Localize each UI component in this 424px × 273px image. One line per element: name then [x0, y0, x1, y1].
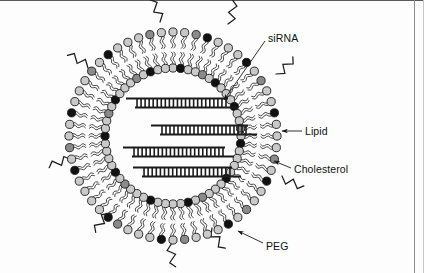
lipid-head-outer [214, 226, 222, 234]
lipid-head-outer [66, 120, 74, 128]
lipid-tail-outer [219, 211, 226, 223]
lipid-tail-inner [190, 54, 194, 67]
lipid-bilayer-layer [65, 28, 281, 244]
lipid-head-outer [95, 58, 103, 66]
lipid-head-outer [135, 34, 143, 42]
label-sirna-text: siRNA [268, 32, 298, 44]
lipid-head-outer [192, 31, 200, 39]
lipid-head-inner [169, 64, 177, 72]
peg-upper-left [67, 50, 91, 70]
label-peg-text: PEG [266, 240, 288, 252]
lipid-head-outer [250, 67, 258, 75]
lipid-head-outer [124, 226, 132, 234]
peg-top-right [226, 0, 240, 25]
lipid-head-outer [181, 235, 189, 243]
lipid-tail-inner [241, 153, 254, 157]
lipid-head-inner [101, 124, 109, 132]
lipid-tail-outer [193, 37, 197, 50]
lipid-head-outer [250, 197, 258, 205]
cholesterol-head-outer [270, 109, 278, 117]
peg-top-left [149, 0, 165, 23]
lipid-head-outer [257, 187, 265, 195]
label-lipid-text: Lipid [305, 125, 328, 137]
lipid-tail-inner [127, 195, 134, 207]
lipid-tail-outer [259, 115, 272, 119]
lipid-head-outer [124, 38, 132, 46]
lipid-tail-outer [191, 222, 195, 235]
label-cholesterol-text: Cholesterol [294, 163, 348, 175]
lipid-tail-outer [86, 182, 98, 189]
cholesterol-head-outer [68, 109, 76, 117]
lipid-head-outer [114, 220, 122, 228]
label-peg-leader [238, 231, 263, 243]
lipid-head-outer [169, 236, 177, 244]
cholesterol-head-outer [263, 177, 271, 185]
lipid-nanoparticle-diagram [0, 0, 424, 273]
lipid-head-inner [235, 117, 243, 125]
cholesterol-head-outer [157, 235, 165, 243]
lipid-head-outer [203, 230, 211, 238]
lipid-tail-outer [259, 156, 272, 160]
label-leader-layer [224, 41, 302, 243]
lipid-head-outer [157, 29, 165, 37]
lipid-head-outer [242, 205, 250, 213]
cholesterol-head-outer [203, 34, 211, 42]
lipid-tail-outer [248, 83, 260, 90]
cholesterol-head-inner [184, 198, 192, 206]
lipid-head-outer [267, 166, 275, 174]
lipid-head-inner [101, 140, 109, 148]
sirna-strand-3 [123, 148, 234, 157]
lipid-head-outer [75, 177, 83, 185]
lipid-head-inner [154, 66, 162, 74]
lipid-head-outer [257, 77, 265, 85]
lipid-head-inner [177, 199, 185, 207]
peg-lower-right [279, 174, 304, 192]
lipid-tail-inner [91, 150, 104, 154]
lipid-tail-outer [74, 154, 87, 158]
lipid-tail-outer [120, 49, 127, 61]
lipid-head-outer [272, 120, 280, 128]
lipid-head-outer [273, 132, 281, 140]
lipid-head-inner [161, 199, 169, 207]
cholesterol-head-inner [236, 140, 244, 148]
lipid-head-outer [267, 98, 275, 106]
lipid-head-outer [214, 38, 222, 46]
lipid-tail-inner [152, 204, 156, 217]
lipid-tail-inner [155, 54, 159, 67]
lipid-tail-inner [242, 118, 255, 122]
cholesterol-head-inner [177, 64, 185, 72]
lipid-head-outer [88, 67, 96, 75]
peg-bottom [167, 243, 177, 268]
lipid-tail-inner [212, 65, 219, 77]
lipid-head-outer [135, 230, 143, 238]
lipid-tail-inner [187, 205, 191, 218]
lipid-head-outer [263, 87, 271, 95]
lipid-head-outer [169, 28, 177, 36]
lipid-head-outer [71, 98, 79, 106]
lipid-head-outer [95, 205, 103, 213]
lipid-head-outer [65, 132, 73, 140]
lipid-head-outer [66, 144, 74, 152]
sirna-strand-1 [126, 99, 237, 108]
lipid-head-outer [81, 77, 89, 85]
label-cholesterol-leader [274, 161, 291, 168]
lipid-head-outer [68, 155, 76, 163]
cholesterol-head-outer [242, 58, 250, 66]
lipid-head-inner [161, 64, 169, 72]
lipid-tail-outer [74, 111, 87, 115]
cholesterol-head-inner [101, 132, 109, 140]
lipid-head-inner [103, 147, 111, 155]
lipid-head-outer [181, 29, 189, 37]
cholesterol-head-outer [71, 166, 79, 174]
lipid-head-outer [146, 31, 154, 39]
lipid-head-outer [234, 51, 242, 59]
lipid-head-outer [224, 44, 232, 52]
lipid-head-outer [272, 144, 280, 152]
figure-frame: siRNA Lipid Cholesterol PEG [0, 0, 424, 273]
lipid-head-inner [169, 200, 177, 208]
lipid-head-outer [234, 213, 242, 221]
cholesterol-head-outer [104, 51, 112, 59]
lipid-head-outer [146, 233, 154, 241]
lipid-head-outer [81, 187, 89, 195]
lipid-head-outer [88, 197, 96, 205]
